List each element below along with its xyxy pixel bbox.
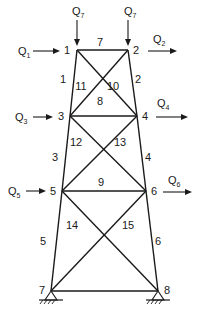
member-label-9: 9	[98, 176, 104, 188]
member-label-10: 10	[107, 80, 119, 92]
load-label-q5: Q5	[8, 185, 21, 199]
member-label-2: 2	[135, 73, 141, 85]
member-labels-layer: 123456789101112131415	[40, 36, 161, 247]
member-15	[51, 191, 146, 291]
load-label-q1: Q1	[18, 45, 31, 59]
member-5	[51, 191, 62, 291]
load-q6-arrow-icon	[163, 189, 192, 195]
member-label-8: 8	[97, 95, 103, 107]
members-layer	[51, 50, 158, 291]
member-label-6: 6	[155, 235, 161, 247]
load-label-q6: Q6	[168, 174, 181, 188]
load-q5-arrow-icon	[26, 188, 46, 194]
load-q1-arrow-icon	[33, 48, 60, 54]
member-label-5: 5	[40, 235, 46, 247]
load-q7b-arrow-icon	[125, 20, 131, 46]
member-label-12: 12	[70, 136, 82, 148]
node-label-5: 5	[50, 185, 56, 197]
supports-layer	[39, 291, 170, 304]
member-12	[70, 116, 146, 191]
truss-diagram: Q1Q2Q3Q4Q5Q6Q7Q7 123456789101112131415 1…	[0, 0, 200, 316]
member-label-7: 7	[97, 36, 103, 48]
node-label-6: 6	[151, 185, 157, 197]
member-label-14: 14	[66, 219, 78, 231]
member-14	[62, 191, 158, 291]
member-label-15: 15	[122, 219, 134, 231]
node-label-7: 7	[39, 284, 45, 296]
member-label-3: 3	[52, 151, 58, 163]
load-q2-arrow-icon	[148, 48, 177, 54]
member-label-11: 11	[75, 80, 86, 92]
node-label-3: 3	[58, 110, 64, 122]
node-label-2: 2	[133, 44, 139, 56]
load-label-q7a: Q7	[72, 5, 85, 19]
member-label-13: 13	[114, 136, 126, 148]
load-label-q3: Q3	[15, 111, 28, 125]
load-label-q4: Q4	[157, 97, 170, 111]
member-label-4: 4	[145, 151, 151, 163]
node-label-4: 4	[142, 110, 148, 122]
member-label-1: 1	[60, 73, 66, 85]
member-3	[62, 116, 70, 191]
node-label-8: 8	[164, 284, 170, 296]
load-q3-arrow-icon	[33, 114, 53, 120]
load-q4-arrow-icon	[156, 114, 188, 120]
load-label-q7b: Q7	[124, 5, 137, 19]
load-q7a-arrow-icon	[74, 20, 80, 46]
load-label-q2: Q2	[153, 33, 166, 47]
node-labels-layer: 12345678	[39, 44, 170, 296]
node-label-1: 1	[64, 44, 70, 56]
